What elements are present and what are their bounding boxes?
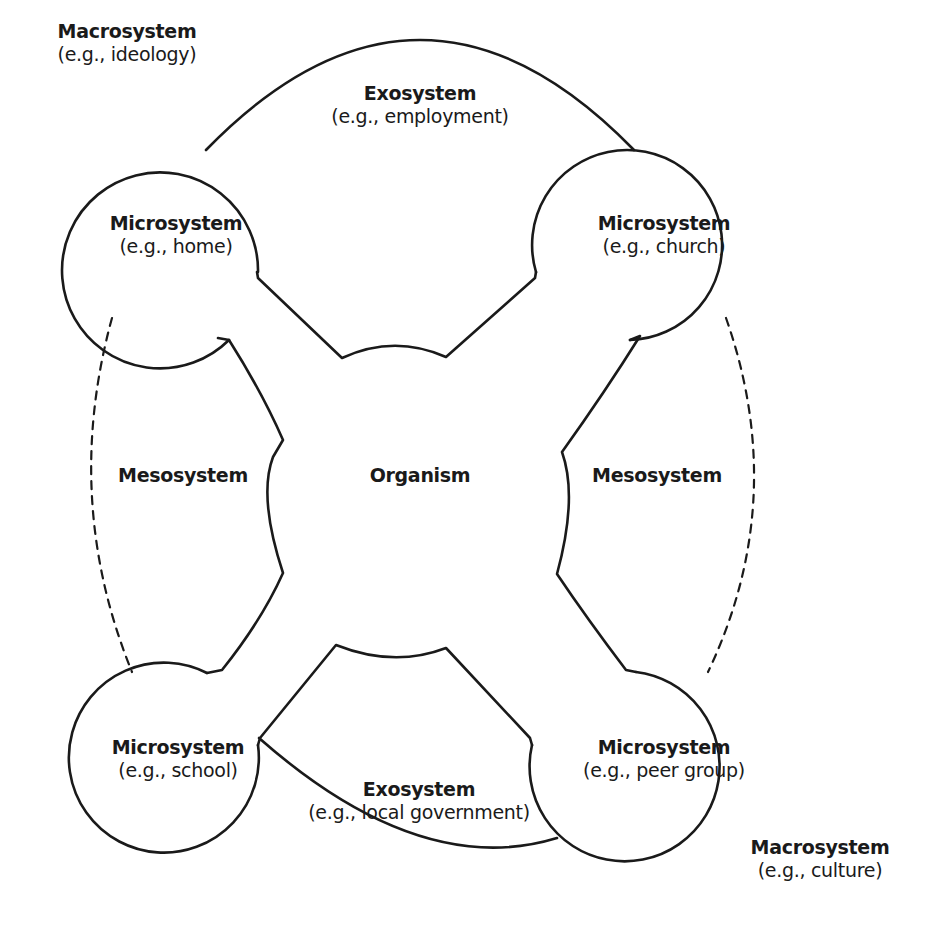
macrosystem-bottom-right-label: Macrosystem (e.g., culture) <box>751 836 890 882</box>
microsystem-title: Microsystem <box>110 212 243 235</box>
microsystem-peer-group-label: Microsystem (e.g., peer group) <box>583 736 745 782</box>
microsystem-title: Microsystem <box>583 736 745 759</box>
microsystem-church-label: Microsystem (e.g., church) <box>598 212 731 258</box>
microsystem-example: (e.g., school) <box>112 759 245 782</box>
mesosystem-right-boundary <box>708 318 754 672</box>
macrosystem-title: Macrosystem <box>751 836 890 859</box>
exosystem-bottom-upper-edge <box>258 645 532 745</box>
microsystem-school-label: Microsystem (e.g., school) <box>112 736 245 782</box>
microsystem-example: (e.g., church) <box>598 235 731 258</box>
mesosystem-right-label: Mesosystem <box>592 464 722 487</box>
organism-title: Organism <box>370 464 471 487</box>
exosystem-top-lower-edge <box>257 272 536 358</box>
mesosystem-title: Mesosystem <box>592 464 722 487</box>
organism-right-edge <box>557 336 640 672</box>
exosystem-title: Exosystem <box>331 82 508 105</box>
exosystem-title: Exosystem <box>308 778 530 801</box>
microsystem-home-label: Microsystem (e.g., home) <box>110 212 243 258</box>
mesosystem-left-boundary <box>91 318 132 672</box>
microsystem-example: (e.g., peer group) <box>583 759 745 782</box>
macrosystem-top-left-label: Macrosystem (e.g., ideology) <box>58 20 197 66</box>
macrosystem-example: (e.g., ideology) <box>58 43 197 66</box>
microsystem-example: (e.g., home) <box>110 235 243 258</box>
macrosystem-example: (e.g., culture) <box>751 859 890 882</box>
exosystem-bottom-label: Exosystem (e.g., local government) <box>308 778 530 824</box>
mesosystem-left-label: Mesosystem <box>118 464 248 487</box>
macrosystem-title: Macrosystem <box>58 20 197 43</box>
exosystem-top-label: Exosystem (e.g., employment) <box>331 82 508 128</box>
microsystem-title: Microsystem <box>112 736 245 759</box>
exosystem-example: (e.g., local government) <box>308 801 530 824</box>
microsystem-title: Microsystem <box>598 212 731 235</box>
organism-left-edge <box>207 338 283 673</box>
mesosystem-title: Mesosystem <box>118 464 248 487</box>
exosystem-example: (e.g., employment) <box>331 105 508 128</box>
microsystem-home-circle <box>62 172 258 368</box>
organism-label: Organism <box>370 464 471 487</box>
